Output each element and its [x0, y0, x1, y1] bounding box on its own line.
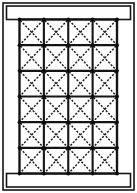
grid-joint-node	[115, 95, 119, 99]
grid-joint-node	[66, 146, 70, 150]
grid-joint-node	[115, 172, 119, 176]
grid-joint-node	[66, 18, 70, 22]
grid-joint-node	[42, 146, 46, 150]
bottom-band-beam	[7, 174, 131, 188]
grid-joint-node	[91, 95, 95, 99]
grid-joint-node	[18, 172, 22, 176]
grid-joint-node	[18, 146, 22, 150]
grid-joint-node	[42, 95, 46, 99]
grid-joint-node	[91, 18, 95, 22]
braced-frame-diagram: Braced frame elevation Rectangular outer…	[0, 0, 137, 193]
grid-joint-node	[66, 120, 70, 124]
grid-joint-node	[115, 146, 119, 150]
grid-joint-node	[91, 172, 95, 176]
grid-joint-node	[42, 43, 46, 47]
grid-joint-node	[18, 120, 22, 124]
grid-joint-node	[42, 120, 46, 124]
grid-joint-node	[91, 69, 95, 73]
grid-joint-node	[18, 43, 22, 47]
top-band-beam	[7, 6, 131, 20]
grid-joint-node	[115, 120, 119, 124]
grid-joint-node	[66, 69, 70, 73]
grid-joint-node	[42, 69, 46, 73]
grid-joint-node	[66, 43, 70, 47]
grid-joint-node	[42, 172, 46, 176]
grid-joint-node	[91, 146, 95, 150]
grid-joint-node	[18, 69, 22, 73]
grid-joint-node	[115, 18, 119, 22]
grid-joint-node	[91, 120, 95, 124]
grid-joint-node	[18, 95, 22, 99]
grid-joint-node	[115, 69, 119, 73]
grid-joint-node	[66, 172, 70, 176]
grid-joint-node	[91, 43, 95, 47]
grid-joint-node	[66, 95, 70, 99]
grid-joint-node	[115, 43, 119, 47]
grid-joint-node	[18, 18, 22, 22]
grid-joint-node	[42, 18, 46, 22]
figure-root: Braced frame elevation Rectangular outer…	[0, 0, 137, 193]
